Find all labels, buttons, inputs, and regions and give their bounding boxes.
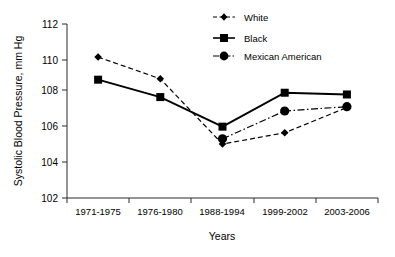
y-axis-title: Systolic Blood Pressure, mm Hg: [12, 36, 24, 187]
y-tick-label-108: 108: [41, 85, 58, 96]
x-tick-label-0: 1971-1975: [75, 206, 120, 217]
y-tick-label-110: 110: [42, 55, 58, 66]
x-axis-title: Years: [209, 230, 235, 242]
data-point-square: [94, 76, 102, 84]
data-point-circle: [342, 102, 351, 111]
y-tick-label-112: 112: [42, 19, 58, 30]
chart-container: 102 104 106 108 110 112 1971-1975 1976-1…: [0, 0, 395, 257]
legend-label-white: White: [244, 12, 268, 23]
legend-label-mexican-american: Mexican American: [244, 51, 322, 62]
x-tick-label-3: 1999-2002: [262, 206, 307, 217]
circle-icon: [220, 52, 229, 61]
y-tick-label-106: 106: [41, 121, 58, 132]
data-point-square: [156, 93, 164, 101]
data-point-square: [343, 90, 351, 98]
data-point-square: [219, 123, 227, 131]
data-point-circle: [280, 106, 289, 115]
x-tick-label-1: 1976-1980: [137, 206, 182, 217]
chart-background: [0, 0, 395, 257]
square-icon: [220, 34, 228, 42]
line-chart: 102 104 106 108 110 112 1971-1975 1976-1…: [0, 0, 395, 257]
y-tick-label-102: 102: [41, 193, 58, 204]
x-tick-label-2: 1988-1994: [199, 206, 244, 217]
legend-label-black: Black: [244, 33, 267, 44]
data-point-circle: [218, 134, 227, 143]
x-tick-label-4: 2003-2006: [324, 206, 369, 217]
y-tick-label-104: 104: [41, 157, 58, 168]
data-point-square: [281, 89, 289, 97]
